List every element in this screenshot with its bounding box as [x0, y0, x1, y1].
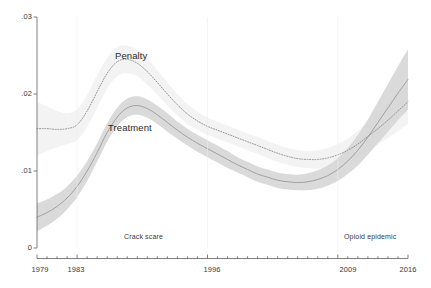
x-axis-tick-label-2009: 2009 [332, 265, 364, 274]
x-axis-tick-label-2016: 2016 [392, 265, 424, 274]
y-axis-tick-label-0: 0 [14, 243, 32, 252]
annotation-crack-scare: Crack scare [124, 233, 163, 240]
chart-figure: .03 .02 .01 0 1979 1983 1996 2009 2016 P… [0, 0, 431, 288]
annotation-opioid-epidemic: Opioid epidemic [344, 233, 396, 240]
series-label-treatment: Treatment [108, 122, 152, 133]
x-axis-tick-label-1983: 1983 [60, 265, 92, 274]
x-axis-tick-label-1979: 1979 [24, 265, 56, 274]
x-axis-tick-label-1996: 1996 [196, 265, 228, 274]
y-axis-tick-label-1: .01 [14, 166, 32, 175]
y-axis-tick-label-3: .03 [14, 12, 32, 21]
y-axis-tick-label-2: .02 [14, 89, 32, 98]
confidence-band-layer [37, 45, 408, 231]
chart-plot-area [0, 0, 431, 288]
series-label-penalty: Penalty [115, 50, 147, 61]
